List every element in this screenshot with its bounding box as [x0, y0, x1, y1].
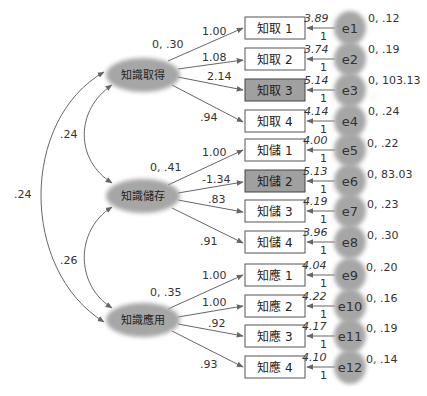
svg-text:0, .23: 0, .23 [367, 198, 399, 211]
error-node: e2 [334, 42, 366, 76]
error-node: e4 [334, 104, 366, 138]
svg-text:1: 1 [320, 338, 327, 351]
svg-text:1: 1 [320, 308, 327, 321]
error-mean-var-labels: 0, .12 0, .19 0, 103.13 0, .24 0, .22 0,… [366, 12, 420, 366]
error-node: e3 [334, 73, 366, 107]
indicator-box-highlighted: 知儲 2 [245, 170, 305, 192]
svg-text:0, .16: 0, .16 [366, 292, 398, 305]
covariance-f2-f3-curve [84, 207, 112, 308]
svg-text:1: 1 [320, 277, 327, 290]
covariance-f2-f3-label: .26 [60, 254, 78, 267]
indicator-box: 知儲 3 [245, 200, 305, 222]
covariance-f1-f3-label: .24 [14, 188, 32, 201]
svg-text:知儲 3: 知儲 3 [257, 205, 292, 219]
loading-label: .91 [200, 235, 218, 248]
factor-node-f2: 知識儲存 [106, 179, 180, 213]
error-node: e8 [334, 225, 366, 259]
covariance-paths [41, 72, 112, 322]
factor-label: 知識應用 [121, 313, 165, 327]
svg-text:1: 1 [320, 244, 327, 257]
svg-text:e1: e1 [342, 21, 358, 36]
loading-label: 2.14 [207, 70, 232, 83]
svg-text:0, 83.03: 0, 83.03 [367, 168, 412, 181]
indicator-box: 知儲 4 [245, 231, 305, 253]
error-node: e7 [334, 194, 366, 228]
svg-text:1: 1 [320, 61, 327, 74]
error-node: e1 [334, 11, 366, 45]
error-node: e12 [334, 350, 366, 384]
svg-text:知儲 2: 知儲 2 [257, 175, 292, 189]
indicator-box: 知取 2 [245, 48, 305, 70]
svg-text:3.74: 3.74 [304, 43, 329, 56]
svg-text:e5: e5 [342, 143, 358, 158]
svg-text:知取 2: 知取 2 [257, 53, 292, 67]
svg-text:知儲 1: 知儲 1 [257, 144, 292, 158]
svg-text:知取 1: 知取 1 [257, 22, 292, 36]
svg-text:3.89: 3.89 [304, 12, 329, 25]
indicator-box: 知取 4 [245, 110, 305, 132]
loading-label: 1.00 [202, 146, 227, 159]
svg-text:e12: e12 [338, 360, 363, 375]
error-terms: e1 e2 e3 e4 e5 e6 e7 e8 e9 e10 e11 e12 [334, 11, 366, 384]
indicator-box: 知應 1 [245, 264, 305, 286]
svg-text:1: 1 [320, 30, 327, 43]
loading-label: .94 [200, 111, 218, 124]
svg-text:e10: e10 [338, 299, 363, 314]
svg-text:4.04: 4.04 [302, 259, 327, 272]
svg-text:0, .19: 0, .19 [366, 322, 398, 335]
factor-mean-var: 0, .30 [152, 38, 184, 51]
factor-label: 知識儲存 [121, 189, 165, 203]
svg-text:知取 4: 知取 4 [257, 115, 292, 129]
svg-text:知取 3: 知取 3 [257, 84, 292, 98]
covariance-f1-f3-curve [41, 72, 104, 322]
error-node: e11 [334, 319, 366, 353]
covariance-f1-f2-label: .24 [60, 128, 78, 141]
svg-text:0, .20: 0, .20 [366, 261, 398, 274]
svg-text:e11: e11 [338, 329, 363, 344]
error-node: e6 [334, 164, 366, 198]
svg-text:1: 1 [320, 152, 327, 165]
indicator-box-highlighted: 知取 3 [245, 79, 305, 101]
indicator-box: 知應 4 [245, 356, 305, 378]
svg-text:e3: e3 [342, 83, 358, 98]
svg-text:1: 1 [320, 183, 327, 196]
indicator-box: 知取 1 [245, 17, 305, 39]
svg-text:0, 103.13: 0, 103.13 [368, 74, 420, 87]
error-node: e5 [334, 133, 366, 167]
svg-text:知儲 4: 知儲 4 [257, 236, 292, 250]
loading-label: -1.34 [202, 173, 230, 186]
loading-label: 1.08 [202, 51, 227, 64]
svg-text:0, .14: 0, .14 [366, 353, 398, 366]
loading-label: 1.00 [202, 25, 227, 38]
svg-text:5.14: 5.14 [304, 74, 329, 87]
svg-text:e6: e6 [342, 174, 358, 189]
factor-mean-var: 0, .35 [150, 286, 182, 299]
indicator-box: 知儲 1 [245, 139, 305, 161]
indicator-box: 知應 3 [245, 325, 305, 347]
covariance-f1-f2-curve [84, 85, 112, 183]
factor-node-f3: 知識應用 [106, 303, 180, 337]
svg-text:1: 1 [320, 369, 327, 382]
svg-text:5.13: 5.13 [303, 165, 328, 178]
svg-text:0, .24: 0, .24 [368, 105, 400, 118]
error-node: e9 [334, 258, 366, 292]
svg-text:1: 1 [320, 123, 327, 136]
svg-text:0, .19: 0, .19 [368, 43, 400, 56]
svg-text:知應 2: 知應 2 [257, 299, 292, 314]
factor-label: 知識取得 [121, 68, 165, 82]
loading-label: .92 [208, 317, 226, 330]
indicator-boxes: 知取 1 知取 2 知取 3 知取 4 知儲 1 知儲 2 知儲 3 知儲 4 … [245, 17, 305, 378]
svg-text:4.22: 4.22 [302, 290, 327, 303]
indicator-box: 知應 2 [245, 295, 305, 317]
svg-text:e2: e2 [342, 52, 358, 67]
svg-text:1: 1 [320, 213, 327, 226]
svg-text:1: 1 [320, 92, 327, 105]
svg-text:知應 3: 知應 3 [257, 329, 292, 344]
svg-text:3.96: 3.96 [303, 226, 328, 239]
svg-text:0, .12: 0, .12 [368, 12, 400, 25]
svg-text:e4: e4 [342, 114, 358, 129]
svg-text:0, .22: 0, .22 [367, 137, 399, 150]
loading-label: .93 [200, 358, 218, 371]
svg-text:4.17: 4.17 [302, 320, 327, 333]
loading-label: 1.00 [202, 296, 227, 309]
